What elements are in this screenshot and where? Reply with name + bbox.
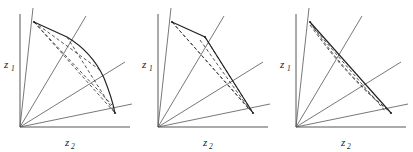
vertex-top <box>309 21 311 23</box>
chord-inner-lower <box>313 27 386 112</box>
ray-lower <box>296 104 408 127</box>
chord-top-to-mid <box>34 22 100 70</box>
vertical-axis-sublabel: 1 <box>149 64 153 73</box>
horizontal-axis-sublabel: 2 <box>209 142 213 151</box>
panel-two-segment-frontier: z 1 z 2 <box>138 0 276 152</box>
vertical-axis-sublabel: 1 <box>11 64 15 73</box>
ray-upper-mid <box>296 16 362 127</box>
axis-labels: z 1 z 2 <box>3 58 75 151</box>
axis-labels: z 1 z 2 <box>141 58 213 151</box>
horizontal-axis-sublabel: 2 <box>347 142 351 151</box>
vertex-right <box>252 112 254 114</box>
ray-mid <box>20 62 125 127</box>
rays-group <box>20 8 132 127</box>
vertical-axis-label: z <box>279 58 285 70</box>
vertical-axis-label: z <box>3 58 9 70</box>
vertex-top <box>171 21 173 23</box>
vertex-top <box>33 21 35 23</box>
axes-group <box>296 14 406 127</box>
chord-top-to-upper-right <box>34 22 112 105</box>
vertical-axis-sublabel: 1 <box>287 64 291 73</box>
vertex-right <box>390 112 392 114</box>
ray-upper-mid <box>20 16 86 127</box>
chord-upper-to-right <box>67 37 115 113</box>
ray-lower <box>158 104 270 127</box>
ray-upper-mid <box>158 16 224 127</box>
vertex-upper <box>204 36 206 38</box>
horizontal-axis-sublabel: 2 <box>71 142 75 151</box>
horizontal-axis-label: z <box>64 136 70 148</box>
vertical-axis-label: z <box>141 58 147 70</box>
panel-curved-frontier: z 1 z 2 <box>0 0 138 152</box>
vertex-right <box>114 112 116 114</box>
horizontal-axis-label: z <box>340 136 346 148</box>
rays-group <box>158 8 270 127</box>
three-panel-cone-diagram: z 1 z 2 <box>0 0 413 152</box>
ray-mid <box>296 62 401 127</box>
horizontal-axis-label: z <box>202 136 208 148</box>
ray-lower <box>20 104 132 127</box>
ray-mid <box>158 62 263 127</box>
panel-single-segment-frontier: z 1 z 2 <box>276 0 413 152</box>
axis-labels: z 1 z 2 <box>279 58 351 151</box>
